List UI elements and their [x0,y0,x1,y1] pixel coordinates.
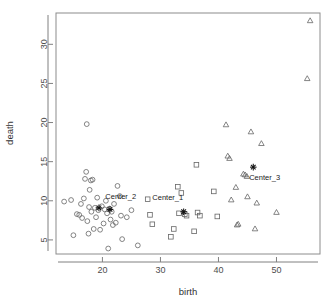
y-tick-label: 10 [39,196,49,206]
cluster-center-Center_1 [180,208,187,215]
cluster-center-Center_2b [107,206,114,213]
center-label: Center_2 [105,192,136,201]
y-tick-label: 5 [39,237,49,242]
y-tick-label: 20 [39,118,49,128]
chart-canvas: 51015202530 20304050 Center_2Center_1Cen… [0,0,332,308]
x-tick-label: 30 [155,265,165,275]
y-axis-title: death [4,121,15,145]
center-label: Center_3 [249,173,280,182]
x-tick-label: 40 [213,265,223,275]
x-tick-label: 20 [97,265,107,275]
cluster-center-Center_3 [250,164,257,171]
cluster-center-Center_2 [96,205,103,212]
y-tick-label: 30 [39,39,49,49]
scatter-plot-figure: 51015202530 20304050 Center_2Center_1Cen… [0,0,332,308]
y-tick-label: 25 [39,78,49,88]
x-tick-label: 50 [271,265,281,275]
y-tick-label: 15 [39,157,49,167]
x-axis-title: birth [179,286,197,297]
center-label: Center_1 [152,193,183,202]
